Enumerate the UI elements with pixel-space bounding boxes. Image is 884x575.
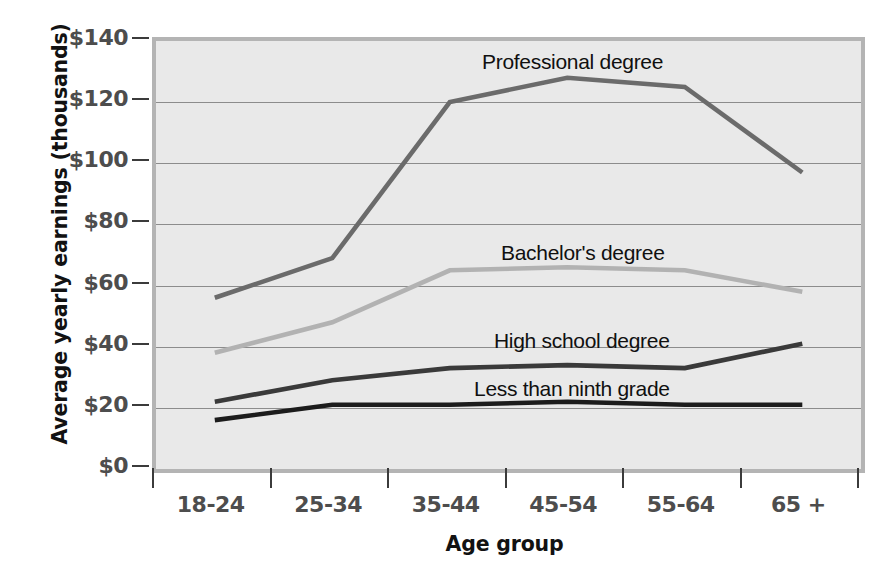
series-label: Professional degree [482, 50, 663, 74]
y-axis-tick-label: $120 [28, 86, 128, 111]
plot-area: Professional degreeBachelor's degreeHigh… [152, 37, 865, 473]
x-axis-tick-mark [152, 468, 154, 488]
x-axis-tick-mark [622, 468, 624, 488]
line-chart: Average yearly earnings (thousands) $0$2… [0, 0, 884, 575]
x-axis-title: Age group [152, 532, 857, 556]
y-axis-tick-label: $80 [28, 208, 128, 233]
y-axis-tick-mark [132, 404, 149, 406]
y-axis-tick-label: $0 [28, 453, 128, 478]
y-axis-tick-mark [132, 343, 149, 345]
y-axis-tick-label: $100 [28, 147, 128, 172]
y-axis-tick-label: $40 [28, 330, 128, 355]
x-axis-tick-mark [387, 468, 389, 488]
x-axis-tick-mark [857, 468, 859, 488]
series-line [215, 402, 803, 420]
y-axis-tick-mark [132, 159, 149, 161]
x-axis-tick-mark [740, 468, 742, 488]
x-axis-tick-mark [505, 468, 507, 488]
y-axis-tick-mark [132, 37, 149, 39]
y-axis-tick-labels: $0$20$40$60$80$100$120$140 [16, 0, 128, 575]
y-axis-tick-label: $140 [28, 25, 128, 50]
x-axis-tick-label: 65 + [718, 492, 878, 517]
y-axis-tick-mark [132, 220, 149, 222]
series-label: High school degree [494, 329, 670, 353]
series-label: Less than ninth grade [474, 377, 670, 401]
y-axis-tick-label: $60 [28, 269, 128, 294]
series-label: Bachelor's degree [501, 241, 665, 265]
plot-inner: Professional degreeBachelor's degreeHigh… [156, 41, 861, 469]
y-axis-tick-label: $20 [28, 391, 128, 416]
y-axis-tick-mark [132, 465, 149, 467]
x-axis-tick-mark [270, 468, 272, 488]
y-axis-tick-mark [132, 98, 149, 100]
y-axis-tick-mark [132, 282, 149, 284]
